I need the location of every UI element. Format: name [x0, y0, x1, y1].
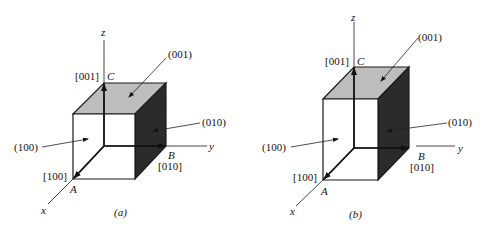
point-c-label: C: [357, 55, 365, 67]
direction-010-label: [010]: [158, 160, 182, 172]
direction-100-label: [100]: [293, 171, 317, 183]
front-face-100: [323, 99, 378, 180]
z-axis-label: z: [100, 26, 106, 38]
plane-001-label: (001): [168, 48, 192, 61]
plane-100-label: (100): [14, 141, 38, 154]
panel-b-caption: (b): [349, 208, 362, 221]
panel-b: z y x C B A [001] [010] [100] (001) (010…: [262, 11, 472, 221]
direction-100-label: [100]: [43, 170, 67, 182]
point-a-label: A: [320, 185, 328, 197]
plane-001-label: (001): [418, 31, 442, 44]
y-axis-label: y: [457, 142, 463, 154]
panel-a-caption: (a): [114, 206, 127, 219]
direction-001-label: [001]: [75, 70, 99, 82]
plane-100-label: (100): [262, 141, 286, 154]
crystal-diagram: z y x C B A [001] [010] [100] (001) (010…: [0, 0, 490, 241]
x-axis-label: x: [40, 204, 46, 216]
point-a-label: A: [69, 183, 77, 195]
panel-a: z y x C B A [001] [010] [100] (001) (010…: [14, 26, 226, 219]
plane-010-label: (010): [202, 116, 226, 129]
plane-010-label: (010): [448, 116, 472, 129]
x-axis: [296, 180, 323, 206]
direction-010-label: [010]: [410, 161, 434, 173]
z-axis-label: z: [350, 11, 356, 23]
x-axis-label: x: [289, 205, 295, 217]
y-axis-label: y: [208, 140, 214, 152]
direction-001-label: [001]: [325, 55, 349, 67]
point-c-label: C: [107, 70, 115, 82]
